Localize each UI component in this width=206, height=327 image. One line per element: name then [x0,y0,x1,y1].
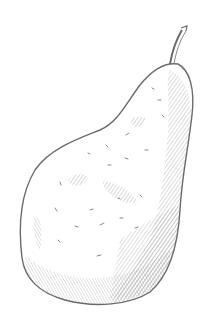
pear-illustration [0,0,206,327]
pear-sketch-icon [0,0,206,327]
stem [170,30,182,64]
